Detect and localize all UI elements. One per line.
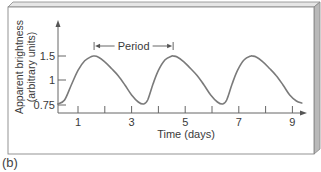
- x-tick-label: 1: [75, 116, 81, 128]
- x-tick-label: 7: [236, 116, 242, 128]
- light-curve-chart: 13579 0.7511.5 Period Time (days) Appare…: [0, 0, 321, 172]
- period-label: Period: [118, 40, 150, 52]
- x-tick-label: 9: [289, 116, 295, 128]
- x-tick-label: 3: [129, 116, 135, 128]
- x-tick-label: 5: [182, 116, 188, 128]
- y-axis-title-line-1: Apparent brightness: [13, 20, 25, 114]
- frame-top-bevel: [8, 2, 320, 7]
- x-axis-title: Time (days): [157, 128, 215, 140]
- y-tick-label: 1.5: [40, 50, 55, 62]
- frame-side-face: [314, 2, 320, 154]
- y-tick-label: 1: [49, 74, 55, 86]
- figure-caption: (b): [2, 155, 18, 170]
- y-axis-title-line-2: (arbitrary units): [25, 32, 37, 103]
